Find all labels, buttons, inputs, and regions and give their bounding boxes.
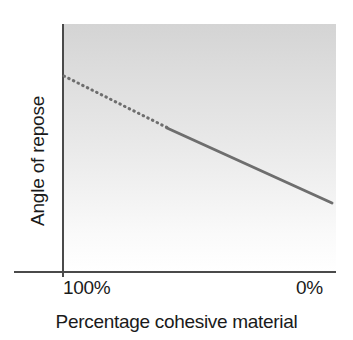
y-axis-title: Angle of repose bbox=[27, 61, 49, 261]
figure-chart-angle-of-repose: Angle of repose 100% 0% Percentage cohes… bbox=[0, 0, 353, 340]
y-axis-line bbox=[62, 24, 64, 277]
x-axis-tick-label-0-percent: 0% bbox=[296, 277, 323, 299]
x-axis-tick-label-100-percent: 100% bbox=[63, 277, 110, 299]
x-axis-line bbox=[14, 271, 336, 273]
plot-area bbox=[63, 24, 336, 272]
x-axis-title: Percentage cohesive material bbox=[0, 311, 353, 333]
